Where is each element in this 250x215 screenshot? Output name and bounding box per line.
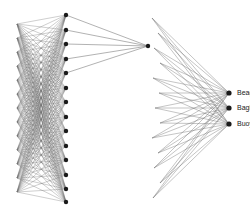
output-node [226,121,231,126]
hidden-node [64,144,68,148]
hidden-node [64,200,68,204]
output-node [226,105,231,110]
hidden-node [64,100,68,104]
hidden-node [64,71,68,75]
hidden-node [64,42,68,46]
edge [154,108,229,168]
edge [66,30,148,46]
edge [153,78,229,93]
hidden-node [64,28,68,32]
edges [17,15,229,202]
edge [160,108,229,183]
edge [17,192,66,202]
edge [152,18,229,108]
edge [154,48,229,108]
edge [153,93,229,198]
output-node [226,90,231,95]
edge [160,93,229,183]
output-label-buoy: Buoy [237,120,250,127]
single-node [146,44,150,48]
hidden-node [64,13,68,17]
edge [66,15,148,46]
nodes [64,13,232,204]
hidden-node [64,187,68,191]
hidden-node [64,86,68,90]
hidden-node [64,158,68,162]
hidden-node [64,57,68,61]
hidden-node [64,173,68,177]
output-label-bagle: Bagle [237,104,250,111]
edge [160,123,229,124]
output-label-beagle: Beagle [237,89,250,96]
edge [153,124,229,198]
hidden-node [64,129,68,133]
hidden-node [64,115,68,119]
edge [160,63,229,108]
network-diagram [0,0,250,215]
edge [160,108,229,123]
edge [66,46,148,73]
edge [66,44,148,46]
edge [153,108,229,198]
edge [66,46,148,59]
